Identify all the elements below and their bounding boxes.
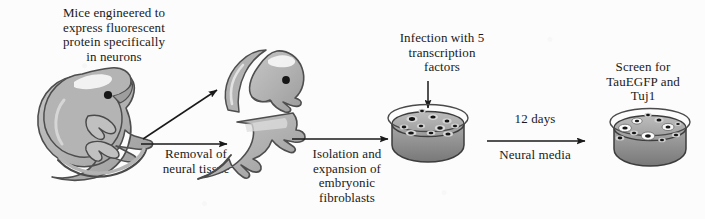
fluorescent-neuron	[662, 123, 674, 130]
fluorescent-neuron	[632, 118, 642, 124]
fibroblast-dish-illustration	[388, 105, 468, 163]
dissected-head-eye	[282, 76, 290, 84]
neuron-dish-illustration	[610, 109, 690, 167]
arrow-embryo-to-head	[143, 90, 217, 139]
figure-panel: Mice engineered to express fluorescent p…	[0, 0, 705, 219]
embryo-illustration	[38, 68, 153, 180]
fluorescent-neuron	[619, 124, 632, 132]
embryo-eye	[104, 91, 112, 99]
dissected-head-illustration	[225, 50, 303, 112]
fluorescent-neuron	[641, 132, 655, 140]
diagram-artwork	[0, 0, 705, 219]
headless-body-illustration	[198, 113, 305, 179]
